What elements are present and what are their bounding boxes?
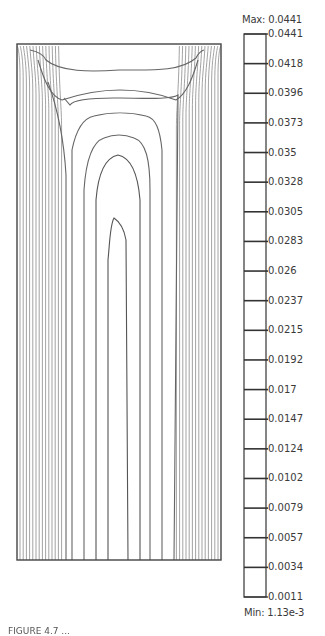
colorbar-tick-label: 0.0305 [268, 206, 303, 217]
colorbar-tick-label: 0.0034 [268, 561, 303, 572]
colorbar-max-label: Max: 0.0441 [242, 14, 302, 25]
colorbar-tick-label: 0.0373 [268, 117, 303, 128]
colorbar-tick-label: 0.0396 [268, 87, 303, 98]
contour-4 [72, 113, 162, 560]
left-wall-contours [17, 46, 62, 560]
colorbar-ticks [244, 34, 268, 597]
colorbar-tick-label: 0.026 [268, 265, 297, 276]
colorbar-tick-label: 0.0283 [268, 235, 303, 246]
contour-innermost [108, 218, 128, 560]
colorbar-tick-label: 0.0418 [268, 58, 303, 69]
contour-6 [96, 155, 140, 560]
colorbar-tick-label: 0.0147 [268, 413, 303, 424]
colorbar-min-label: Min: 1.13e-3 [244, 607, 304, 618]
contour-plot [0, 0, 240, 600]
colorbar-tick-label: 0.017 [268, 384, 297, 395]
colorbar-tick-label: 0.0124 [268, 443, 303, 454]
domain-boundary [17, 44, 221, 560]
colorbar-tick-label: 0.0441 [268, 28, 303, 39]
right-wall-contours [176, 46, 221, 560]
colorbar-tick-label: 0.0215 [268, 324, 303, 335]
colorbar-tick-label: 0.0102 [268, 472, 303, 483]
colorbar-tick-label: 0.035 [268, 147, 297, 158]
colorbar-frame [244, 34, 266, 597]
colorbar-tick-label: 0.0057 [268, 532, 303, 543]
colorbar-tick-label: 0.0237 [268, 295, 303, 306]
figure-caption: FIGURE 4.7 ... [8, 626, 70, 636]
contour-2 [38, 60, 198, 100]
colorbar-tick-label: 0.0011 [268, 591, 303, 602]
colorbar-tick-label: 0.0079 [268, 502, 303, 513]
colorbar-tick-label: 0.0192 [268, 354, 303, 365]
colorbar-tick-label: 0.0328 [268, 176, 303, 187]
contour-3 [48, 82, 178, 560]
